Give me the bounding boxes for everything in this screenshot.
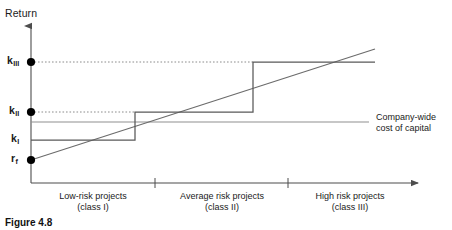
- y-tick-sub-k3: III: [13, 59, 19, 68]
- marker-rf: [27, 156, 35, 164]
- y-tick-label-k2: kII: [9, 104, 19, 116]
- figure-caption: Figure 4.8: [5, 217, 52, 228]
- x-category-label-class-2: Average risk projects (class II): [157, 191, 287, 212]
- y-tick-label-rf: rf: [11, 152, 18, 164]
- y-tick-sub-k1: I: [17, 137, 19, 146]
- marker-k3: [27, 58, 35, 66]
- marker-k2: [27, 108, 35, 116]
- company-wide-cost-of-capital-label: Company-wide cost of capital: [376, 112, 436, 133]
- y-axis-title: Return: [5, 7, 37, 19]
- x-category-label-class-3: High risk projects (class III): [290, 191, 410, 212]
- figure-container: Return kIII kII kI rf Low-risk projects …: [0, 0, 452, 230]
- y-tick-sub-rf: f: [15, 157, 17, 166]
- y-tick-label-k1: kI: [11, 132, 19, 144]
- y-tick-label-k3: kIII: [7, 54, 19, 66]
- security-market-line: [31, 49, 375, 160]
- x-category-label-class-1: Low-risk projects (class I): [33, 191, 153, 212]
- risk-adjusted-step-function: [31, 62, 375, 140]
- y-tick-sub-k2: II: [15, 109, 19, 118]
